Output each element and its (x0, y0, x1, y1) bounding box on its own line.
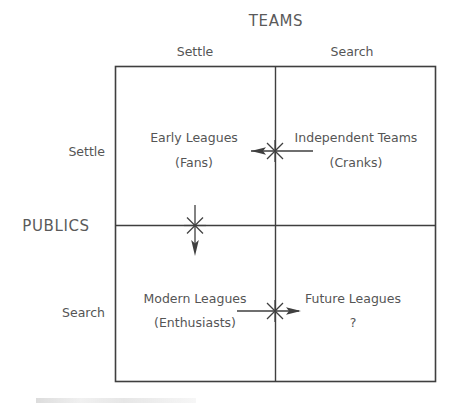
row-header-search: Search (62, 306, 105, 319)
cell-title-future-leagues: Future Leagues (305, 292, 401, 305)
cell-subtitle-cranks: (Cranks) (330, 156, 383, 169)
cell-subtitle-enthusiasts: (Enthusiasts) (154, 316, 236, 329)
column-header-search: Search (331, 45, 374, 58)
page-edge-artifact (36, 398, 196, 403)
cell-subtitle-fans: (Fans) (175, 156, 213, 169)
column-axis-title: TEAMS (249, 14, 303, 30)
matrix-grid-svg (0, 0, 451, 406)
diagram-canvas: TEAMS Settle Search PUBLICS Settle Searc… (0, 0, 451, 406)
cell-title-independent-teams: Independent Teams (295, 131, 418, 144)
bottom-arrow-right (237, 300, 301, 322)
center-arrow-down (184, 205, 206, 256)
cell-subtitle-question: ? (350, 316, 357, 329)
cell-title-modern-leagues: Modern Leagues (143, 292, 246, 305)
row-header-settle: Settle (68, 145, 105, 158)
cell-title-early-leagues: Early Leagues (150, 131, 238, 144)
row-axis-title: PUBLICS (22, 219, 89, 235)
column-header-settle: Settle (177, 45, 214, 58)
